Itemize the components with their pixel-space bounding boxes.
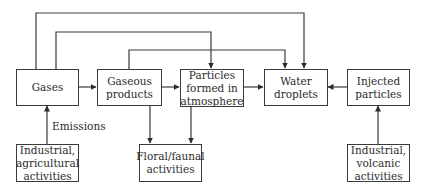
node-water-droplets: Water droplets	[264, 69, 328, 106]
edge-gases-to-water-droplets	[36, 13, 304, 69]
node-particles-formed: Particles formed in atmosphere	[180, 69, 244, 107]
node-industrial-agricultural: Industrial, agricultural activities	[16, 144, 79, 182]
node-injected-particles: Injected particles	[347, 69, 410, 106]
edge-gaseous-to-water-droplets	[129, 50, 285, 69]
node-gaseous-products: Gaseous products	[97, 69, 162, 106]
emissions-label: Emissions	[52, 120, 106, 133]
node-gases: Gases	[16, 69, 79, 106]
node-industrial-volcanic: Industrial, volcanic activities	[347, 144, 410, 182]
node-floral-faunal: Floral/faunal activities	[139, 144, 202, 182]
